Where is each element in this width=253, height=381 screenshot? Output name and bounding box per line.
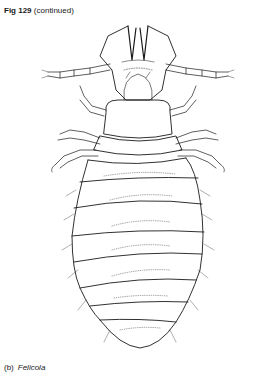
genus-name: Felicola <box>18 363 46 372</box>
head <box>100 26 176 100</box>
antennae <box>42 64 234 78</box>
legs <box>52 86 225 172</box>
abdomen <box>62 158 214 348</box>
panel-label: (b) <box>4 363 14 372</box>
figure-caption-footer: (b)Felicola <box>4 363 45 373</box>
louse-illustration <box>0 0 253 381</box>
thorax <box>94 100 182 155</box>
stippling <box>104 172 176 330</box>
